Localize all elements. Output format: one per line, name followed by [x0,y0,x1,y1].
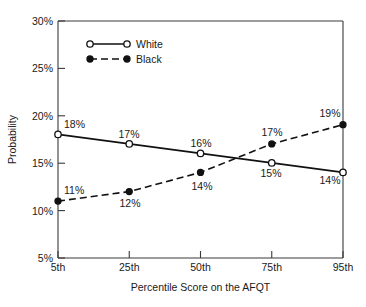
data-point-black-95th [340,122,346,128]
y-tick-label-15: 15% [32,157,53,169]
line-chart: 30% 25% 20% 15% 10% 5% 5th 25th 50th 75t… [0,0,366,307]
data-label-black-5th: 11% [64,184,84,196]
x-tick-marks [58,251,343,258]
x-tick-label-50th: 50th [190,261,211,273]
x-tick-labels: 5th 25th 50th 75th 95th [51,261,354,273]
x-axis-title: Percentile Score on the AFQT [131,281,271,293]
data-label-white-5th: 18% [64,118,85,130]
data-point-black-25th [126,189,132,195]
chart-container: 30% 25% 20% 15% 10% 5% 5th 25th 50th 75t… [0,0,366,307]
data-label-black-25th: 12% [119,197,140,209]
data-point-white-75th [269,160,275,166]
data-label-white-25th: 17% [118,128,139,140]
legend-marker-white-right [124,41,130,47]
data-label-white-50th: 16% [190,137,211,149]
y-tick-label-20: 20% [32,110,53,122]
legend-entry-black[interactable]: Black [87,53,162,65]
y-tick-label-10: 10% [32,205,53,217]
legend-label-black: Black [136,53,162,65]
x-tick-label-75th: 75th [262,261,283,273]
data-label-white-95th: 14% [319,174,340,186]
legend-marker-white-left [87,41,93,47]
y-tick-label-25: 25% [32,62,53,74]
data-point-white-95th [340,169,346,175]
data-point-white-50th [197,150,203,156]
legend-label-white: White [136,38,163,50]
y-tick-labels: 30% 25% 20% 15% 10% 5% [32,15,53,264]
data-point-white-5th [55,131,61,137]
x-tick-label-95th: 95th [333,261,354,273]
data-label-black-50th: 14% [191,180,212,192]
y-axis-title: Probability [6,114,18,164]
data-label-black-75th: 17% [261,126,282,138]
x-tick-label-5th: 5th [51,261,66,273]
y-tick-label-30: 30% [32,15,53,27]
data-point-black-50th [198,169,204,175]
data-point-black-75th [269,141,275,147]
legend: White Black [87,38,163,65]
data-point-black-5th [55,198,61,204]
legend-entry-white[interactable]: White [87,38,163,50]
data-label-black-95th: 19% [319,107,340,119]
data-labels-black: 11% 12% 14% 17% 19% [64,107,341,209]
legend-marker-black-right [124,56,130,62]
data-point-white-25th [126,141,132,147]
legend-marker-black-left [87,56,93,62]
data-label-white-75th: 15% [260,167,281,179]
x-tick-label-25th: 25th [119,261,140,273]
y-tick-marks [58,21,65,258]
